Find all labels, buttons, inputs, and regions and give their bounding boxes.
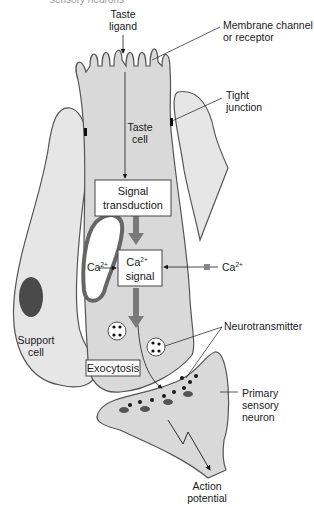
primary-neuron-label-1: Primary [242, 387, 279, 399]
action-potential-label-1: Action [192, 480, 221, 492]
support-cell-label-2: cell [28, 346, 44, 358]
support-cell-label-1: Support [18, 334, 55, 346]
signal-transduction-label-1: Signal [118, 185, 149, 197]
primary-neuron-label-3: neuron [242, 411, 275, 423]
taste-cell-label-1: Taste [127, 121, 152, 133]
ca-signal-word: signal [126, 270, 155, 282]
taste-cell-label-2: cell [132, 133, 148, 145]
tight-junction-label-1: Tight [226, 89, 249, 101]
tight-junction-right [170, 118, 173, 126]
taste-ligand-label-1: Taste [110, 8, 135, 20]
membrane-channel-label-1: Membrane channel [223, 19, 313, 31]
taste-ligand-label-2: ligand [109, 20, 137, 32]
tight-junction-label-2: junction [225, 101, 262, 113]
ca-external-label: Ca2+ [222, 261, 243, 273]
membrane-channel-pointer [152, 27, 220, 60]
taste-cell-diagram: sensory neurons [0, 0, 314, 507]
vesicle [147, 338, 165, 356]
vesicle [108, 322, 126, 340]
calcium-channel [204, 264, 210, 270]
membrane-channel-label-2: or receptor [223, 31, 274, 43]
action-potential-label-2: potential [187, 492, 227, 504]
tight-junction-left [84, 128, 87, 136]
top-cut-label: sensory neurons [50, 0, 124, 5]
signal-transduction-label-2: transduction [103, 199, 163, 211]
support-cell-nucleus [19, 277, 43, 317]
primary-neuron-label-2: sensory [242, 399, 280, 411]
exocytosis-label: Exocytosis [87, 362, 140, 374]
neurotransmitter-label: Neurotransmitter [224, 320, 303, 332]
